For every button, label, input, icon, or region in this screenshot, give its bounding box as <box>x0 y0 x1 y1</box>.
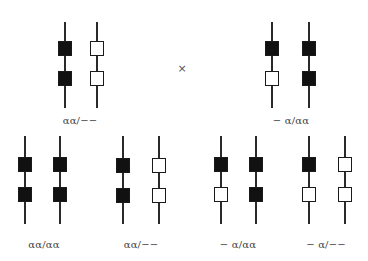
alpha-gene-present <box>302 71 316 86</box>
chromosome <box>64 22 66 108</box>
chromosome <box>96 22 98 108</box>
alpha-gene-present <box>58 71 72 86</box>
alpha-gene-present <box>265 41 279 56</box>
chromosome <box>24 136 26 224</box>
alpha-gene-deleted <box>90 71 104 86</box>
genotype-label: − α/−− <box>306 239 346 250</box>
alpha-gene-present <box>18 157 32 172</box>
alpha-gene-deleted <box>265 71 279 86</box>
chromosome <box>308 22 310 108</box>
alpha-gene-present <box>18 187 32 202</box>
genotype-label: αα/−− <box>124 239 159 250</box>
alpha-gene-deleted <box>152 158 166 173</box>
chromosome <box>255 136 257 224</box>
chromosome <box>158 136 160 224</box>
alpha-gene-present <box>116 188 130 203</box>
genotype-label: − α/αα <box>220 239 256 250</box>
genotype-label: αα/−− <box>63 115 98 126</box>
chromosome <box>59 136 61 224</box>
chromosome <box>122 136 124 224</box>
alpha-gene-present <box>58 41 72 56</box>
alpha-gene-deleted <box>214 187 228 202</box>
alpha-gene-present <box>249 157 263 172</box>
chromosome <box>344 136 346 224</box>
alpha-gene-present <box>214 157 228 172</box>
alpha-gene-present <box>53 187 67 202</box>
chromosome <box>308 136 310 224</box>
genotype-label: αα/αα <box>28 239 59 250</box>
alpha-gene-deleted <box>302 187 316 202</box>
genotype-label: − α/αα <box>273 115 309 126</box>
alpha-gene-deleted <box>90 41 104 56</box>
alpha-gene-present <box>53 157 67 172</box>
alpha-gene-deleted <box>338 157 352 172</box>
alpha-gene-present <box>249 187 263 202</box>
alpha-gene-present <box>302 157 316 172</box>
alpha-gene-present <box>302 41 316 56</box>
alpha-gene-deleted <box>152 188 166 203</box>
alpha-gene-deleted <box>338 187 352 202</box>
cross-symbol: × <box>177 62 186 75</box>
chromosome <box>271 22 273 108</box>
alpha-gene-present <box>116 158 130 173</box>
chromosome <box>220 136 222 224</box>
